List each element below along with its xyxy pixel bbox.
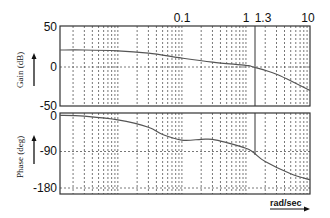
phase-tick-minus90: -90	[40, 144, 58, 158]
phase-tick-0: 0	[50, 109, 57, 123]
phase-axis-label: Phase (deg)	[15, 136, 25, 178]
gain-plot-frame	[60, 26, 310, 106]
phase-arrowhead-icon	[32, 135, 37, 141]
grid-lines	[60, 26, 310, 194]
gain-curve	[60, 50, 310, 91]
gain-tick-50: 50	[44, 20, 58, 34]
x-tick-1.3: 1.3	[255, 11, 272, 25]
gain-arrowhead-icon	[32, 53, 37, 59]
x-unit-label: rad/sec	[270, 198, 302, 208]
x-tick-0.1: 0.1	[174, 11, 191, 25]
phase-plot-frame	[60, 113, 310, 194]
x-tick-10: 10	[301, 11, 315, 25]
gain-tick-0: 0	[50, 60, 57, 74]
phase-tick-minus180: -180	[33, 181, 57, 195]
phase-curve	[60, 115, 310, 179]
gain-axis-label: Gain (dB)	[15, 52, 25, 88]
x-arrowhead-icon	[304, 207, 310, 212]
x-tick-1: 1	[243, 11, 250, 25]
bode-plot: 0.1 1 1.3 10 50 0 -50 0 -90 -180 Gain (d…	[0, 0, 330, 218]
